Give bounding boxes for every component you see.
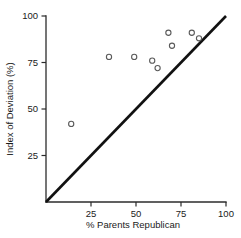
data-point [150, 58, 155, 63]
data-point [166, 30, 171, 35]
x-tick-label: 50 [131, 208, 142, 219]
x-tick-label: 100 [218, 208, 234, 219]
data-point [69, 121, 74, 126]
plot-canvas: 255075100 255075100 % Parents Republican… [0, 0, 241, 238]
data-point [189, 30, 194, 35]
data-point [169, 43, 174, 48]
y-tick-label: 50 [27, 103, 38, 114]
y-tick-label: 100 [22, 10, 38, 21]
x-tick-label: 25 [86, 208, 97, 219]
scatter-plot-figure: 255075100 255075100 % Parents Republican… [0, 0, 241, 238]
y-axis-title: Index of Deviation (%) [4, 62, 15, 155]
data-point [155, 65, 160, 70]
y-tick-label: 75 [27, 57, 38, 68]
data-point [196, 36, 201, 41]
x-axis-title: % Parents Republican [86, 219, 180, 230]
data-point [132, 54, 137, 59]
data-point [106, 54, 111, 59]
identity-reference-line [46, 16, 226, 202]
y-tick-label: 25 [27, 150, 38, 161]
x-tick-label: 75 [176, 208, 187, 219]
x-axis-ticks: 255075100 [86, 202, 234, 219]
data-points [69, 30, 202, 126]
y-axis-ticks: 255075100 [22, 10, 46, 161]
